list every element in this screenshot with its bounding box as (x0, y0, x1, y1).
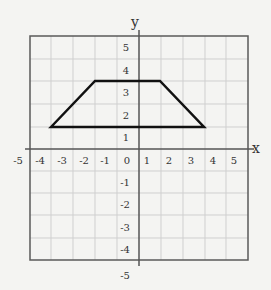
svg-text:4: 4 (210, 155, 216, 166)
svg-text:-3: -3 (57, 155, 67, 166)
svg-text:5: 5 (231, 155, 237, 166)
svg-text:-3: -3 (120, 222, 130, 233)
svg-text:3: 3 (188, 155, 194, 166)
svg-text:1: 1 (144, 155, 150, 166)
svg-text:-4: -4 (35, 155, 45, 166)
svg-text:0: 0 (124, 155, 130, 166)
svg-text:5: 5 (123, 42, 129, 53)
coordinate-plane: x y -5 -4 -3 -2 -1 0 1 2 3 4 5 5 4 3 2 1… (0, 0, 271, 290)
svg-text:-2: -2 (120, 199, 130, 210)
svg-text:-5: -5 (13, 155, 23, 166)
svg-text:-4: -4 (120, 244, 130, 255)
svg-text:3: 3 (123, 87, 129, 98)
y-axis-label: y (130, 14, 139, 30)
svg-text:-1: -1 (100, 155, 110, 166)
svg-text:1: 1 (123, 132, 129, 143)
svg-text:-1: -1 (120, 177, 130, 188)
svg-text:-5: -5 (120, 270, 130, 281)
svg-text:2: 2 (123, 110, 129, 121)
x-axis-label: x (252, 140, 260, 156)
x-tick-labels: -5 -4 -3 -2 -1 0 1 2 3 4 5 (13, 155, 237, 166)
svg-text:2: 2 (166, 155, 172, 166)
svg-text:-2: -2 (79, 155, 89, 166)
svg-text:4: 4 (123, 65, 129, 76)
